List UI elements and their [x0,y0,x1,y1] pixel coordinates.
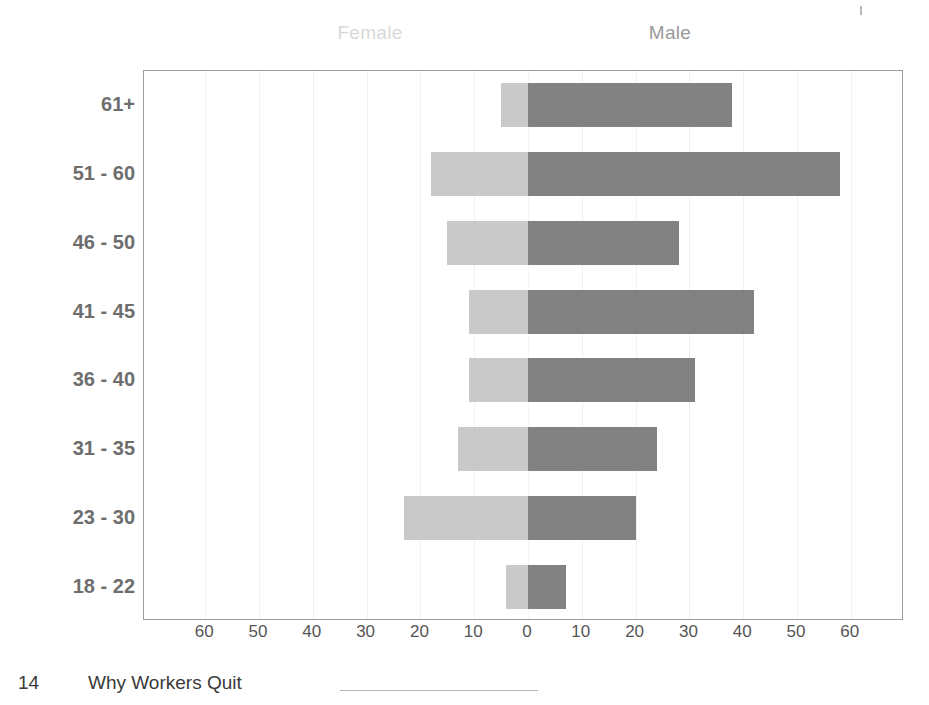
bar-male [528,221,679,265]
x-axis-tick-labels: 6050403020100102030405060 [0,622,929,652]
y-axis-label: 31 - 35 [0,437,135,460]
bar-female [431,152,528,196]
y-axis-category-labels: 61+51 - 6046 - 5041 - 4536 - 4031 - 3523… [0,70,135,620]
x-axis-tick-label: 40 [292,622,332,642]
y-axis-label: 18 - 22 [0,574,135,597]
bar-female [447,221,528,265]
bar-female [469,358,528,402]
y-axis-label: 61+ [0,93,135,116]
bar-group [144,83,902,127]
x-axis-tick-label: 60 [184,622,224,642]
x-axis-tick-label: 40 [722,622,762,642]
bar-male [528,152,840,196]
legend-label-male: Male [620,22,720,44]
footer-page-number: 14 [18,672,39,694]
x-axis-tick-label: 50 [238,622,278,642]
bar-female [458,427,528,471]
bar-female [506,565,528,609]
x-axis-tick-label: 0 [507,622,547,642]
y-axis-label: 23 - 30 [0,505,135,528]
legend-label-female: Female [320,22,420,44]
bar-male [528,83,732,127]
bar-group [144,221,902,265]
bar-female [469,290,528,334]
x-axis-tick-label: 50 [776,622,816,642]
bar-male [528,427,657,471]
chart-header: Female Male [0,0,929,64]
bar-male [528,565,566,609]
x-axis-tick-label: 10 [561,622,601,642]
bar-male [528,496,636,540]
chart-plot-area [143,70,903,620]
y-axis-label: 46 - 50 [0,230,135,253]
x-axis-tick-label: 20 [615,622,655,642]
bar-group [144,152,902,196]
footer-title: Why Workers Quit [88,672,242,694]
bar-group [144,427,902,471]
footer-divider [340,690,538,691]
bar-female [404,496,528,540]
x-axis-tick-label: 10 [453,622,493,642]
bar-female [501,83,528,127]
bar-group [144,496,902,540]
x-axis-tick-label: 30 [346,622,386,642]
bar-group [144,290,902,334]
y-axis-label: 36 - 40 [0,368,135,391]
top-tick-mark-icon [860,6,862,15]
page-footer: 14 Why Workers Quit [0,662,929,705]
x-axis-tick-label: 20 [399,622,439,642]
bar-group [144,565,902,609]
x-axis-tick-label: 30 [668,622,708,642]
y-axis-label: 41 - 45 [0,299,135,322]
y-axis-label: 51 - 60 [0,162,135,185]
bar-male [528,290,754,334]
bar-male [528,358,695,402]
x-axis-tick-label: 60 [830,622,870,642]
bar-group [144,358,902,402]
chart-bars-layer [144,71,902,619]
